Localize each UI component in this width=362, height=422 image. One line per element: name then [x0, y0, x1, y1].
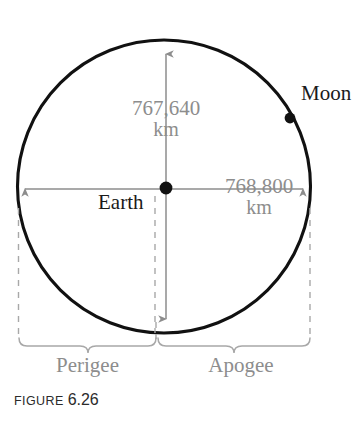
- vertical-dimension-value: 767,640: [92, 98, 240, 119]
- moon-marker-dot: [285, 113, 296, 124]
- horizontal-dimension-value: 768,800: [196, 176, 322, 197]
- horizontal-dimension-label: 768,800 km: [196, 176, 322, 218]
- earth-marker-dot: [160, 182, 173, 195]
- figure-6-26: 767,640 km 768,800 km Earth Moon Perigee…: [0, 0, 362, 422]
- horizontal-dimension-unit: km: [196, 197, 322, 217]
- perigee-brace: [19, 338, 156, 353]
- figure-caption-number: 6.26: [68, 391, 99, 408]
- perigee-label: Perigee: [18, 355, 157, 376]
- apogee-label: Apogee: [172, 355, 310, 376]
- figure-caption: FIGURE6.26: [14, 391, 99, 409]
- moon-label: Moon: [301, 83, 351, 104]
- earth-label: Earth: [98, 192, 143, 213]
- apogee-brace: [158, 338, 310, 353]
- figure-caption-word: FIGURE: [14, 394, 64, 408]
- vertical-dimension-label: 767,640 km: [92, 98, 240, 140]
- vertical-dimension-unit: km: [92, 119, 240, 139]
